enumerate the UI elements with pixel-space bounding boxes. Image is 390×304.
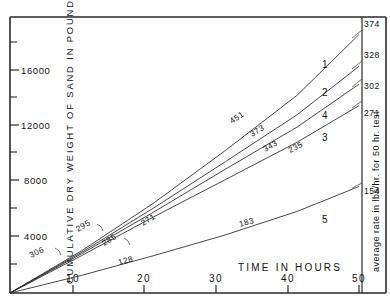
curve-id-1: 1 (322, 59, 328, 70)
leader-285 (124, 238, 130, 245)
slope-label-3-early: 271 (139, 212, 157, 228)
curve-id-2: 2 (322, 87, 328, 98)
y-axis-title: CUMULATIVE DRY WEIGHT OF SAND IN POUNDS (65, 0, 75, 284)
leader-306 (55, 248, 61, 255)
curves-group (10, 35, 359, 294)
end-label-3: 271 (364, 108, 380, 118)
curve-2 (10, 66, 359, 293)
x-ticks (73, 285, 359, 293)
slope-labels-late: 451 373 343 235 183 (228, 110, 304, 229)
x-tick-labels: 10 20 30 40 50 (66, 273, 366, 284)
x-tick-label-30: 30 (209, 273, 223, 284)
chart-figure: 16000 12000 8000 4000 CUMULATIVE DRY WEI… (0, 0, 390, 304)
slope-label-1-early: 306 (28, 245, 46, 260)
y-tick-label-12000: 12000 (21, 120, 50, 131)
slope-label-2-early: 295 (74, 218, 92, 234)
curve-5 (10, 187, 359, 294)
x-tick-label-20: 20 (137, 273, 151, 284)
curve-id-4: 4 (322, 110, 328, 121)
y-tick-label-16000: 16000 (21, 65, 50, 76)
end-label-5: 154 (364, 186, 380, 196)
leader-295 (97, 224, 103, 231)
y-ticks (10, 42, 19, 264)
slope-label-1-late: 451 (228, 110, 246, 126)
y-tick-labels: 16000 12000 8000 4000 (21, 65, 50, 242)
x-tick-label-50: 50 (352, 273, 366, 284)
end-label-4: 302 (364, 81, 380, 91)
slope-label-5-early: 128 (117, 254, 134, 267)
curve-id-3: 3 (322, 132, 328, 143)
curve-1 (10, 35, 359, 294)
chart-svg: 16000 12000 8000 4000 CUMULATIVE DRY WEI… (0, 0, 390, 304)
y-tick-label-8000: 8000 (24, 175, 48, 186)
x-tick-label-40: 40 (281, 273, 295, 284)
end-label-2: 328 (364, 50, 380, 60)
slope-label-4-late: 343 (262, 139, 280, 154)
x-axis-title: TIME IN HOURS (238, 262, 342, 273)
slope-label-5-late: 183 (238, 216, 255, 229)
slope-label-3-late: 235 (287, 140, 305, 155)
curve-id-5: 5 (322, 214, 328, 225)
y-tick-label-4000: 4000 (24, 231, 48, 242)
end-label-1: 374 (364, 19, 380, 29)
